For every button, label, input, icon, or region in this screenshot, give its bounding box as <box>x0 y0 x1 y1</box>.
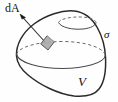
equator-front-arc <box>17 55 106 69</box>
leader-line <box>22 16 46 43</box>
top-cap-front-arc <box>59 23 97 30</box>
leader-arrowhead-icon <box>20 14 26 19</box>
label-volume-v: V <box>78 75 86 88</box>
surface-diagram-svg <box>0 0 118 102</box>
surface-outline-path <box>16 11 105 96</box>
label-area-element: dA <box>5 2 20 14</box>
equator-back-arc <box>17 42 106 56</box>
area-element-patch <box>41 36 55 50</box>
label-surface-sigma: σ <box>104 29 109 40</box>
figure-container: dA σ V <box>0 0 118 102</box>
